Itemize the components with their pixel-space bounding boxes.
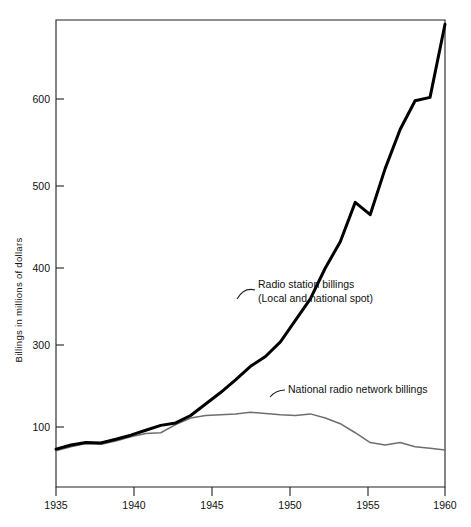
x-tick-label-1960: 1960 (433, 499, 457, 511)
y-axis-title: Billings in millions of dollars (13, 238, 24, 363)
y-axis-ticks (56, 99, 64, 427)
chart-container: 600 500 400 300 100 1935 1940 1945 1950 … (0, 0, 471, 527)
line-chart: 600 500 400 300 100 1935 1940 1945 1950 … (0, 0, 471, 527)
x-axis-ticks (56, 487, 445, 496)
y-tick-label-100: 100 (32, 421, 50, 433)
x-tick-label-1935: 1935 (44, 499, 68, 511)
x-axis-tick-labels: 1935 1940 1945 1950 1955 1960 (44, 499, 457, 511)
y-tick-label-300: 300 (32, 339, 50, 351)
annotation-radio-station-line1: Radio station billings (258, 278, 354, 290)
y-tick-label-500: 500 (32, 180, 50, 192)
annotation-leader-radio-station (237, 289, 255, 299)
series-line-national-radio-network-billings (56, 412, 445, 451)
y-tick-label-600: 600 (32, 93, 50, 105)
annotation-leader-national-network (270, 390, 285, 397)
plot-frame (56, 20, 445, 487)
x-tick-label-1940: 1940 (122, 499, 146, 511)
y-axis-tick-labels: 600 500 400 300 100 (32, 93, 50, 433)
annotation-national-radio-network-billings: National radio network billings (288, 383, 428, 395)
annotation-radio-station-line2: (Local and national spot) (258, 292, 373, 304)
y-tick-label-400: 400 (32, 262, 50, 274)
x-tick-label-1955: 1955 (356, 499, 380, 511)
x-tick-label-1945: 1945 (200, 499, 224, 511)
annotation-national-network-line1: National radio network billings (288, 383, 428, 395)
x-tick-label-1950: 1950 (278, 499, 302, 511)
